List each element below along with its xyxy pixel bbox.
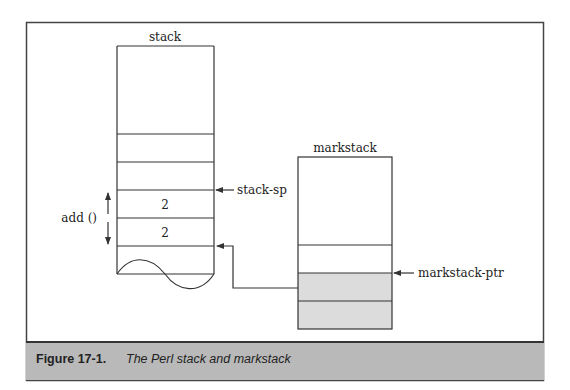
figure-caption-bar: Figure 17-1. The Perl stack and markstac… bbox=[26, 341, 544, 380]
stack-label: stack bbox=[149, 30, 182, 44]
figure-frame bbox=[27, 23, 544, 381]
add-span-label: add () bbox=[61, 211, 97, 225]
stack-sp-label: stack-sp bbox=[237, 183, 287, 197]
diagram-canvas: stack 2 2 add () stack-sp markstack mark… bbox=[0, 0, 570, 390]
figure-number: Figure 17-1. bbox=[36, 352, 106, 366]
markstack-ptr-label: markstack-ptr bbox=[418, 266, 504, 280]
stack-cell-value: 2 bbox=[161, 198, 169, 212]
stack-cell-value: 2 bbox=[161, 226, 169, 240]
markstack-label: markstack bbox=[313, 141, 377, 155]
figure-title: The Perl stack and markstack bbox=[126, 352, 291, 366]
